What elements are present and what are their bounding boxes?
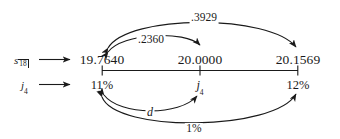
arc-label-upper-outer: .3929 — [190, 12, 219, 24]
row-label-j-subscript: 4 — [24, 87, 28, 96]
scale-bottom-j-subscript: 4 — [200, 88, 204, 97]
scale-axis — [102, 66, 298, 76]
row-pointer-arrows — [39, 60, 70, 85]
scale-bottom-value-middle: j4 — [196, 79, 203, 94]
row-label-s-subscript: 18 — [18, 59, 29, 68]
scale-bottom-value-left: 11% — [91, 79, 113, 92]
row-label-accumulation-symbol: s18 — [14, 55, 29, 66]
scale-top-value-left: 19.7640 — [80, 53, 125, 67]
arc-label-upper-inner: .2360 — [137, 34, 166, 46]
row-label-nominal-rate-symbol: j4 — [21, 80, 28, 94]
arc-label-lower-inner: d — [146, 106, 155, 118]
scale-top-value-right: 20.1569 — [276, 53, 321, 67]
diagram-canvas — [0, 0, 340, 139]
scale-bottom-value-right: 12% — [287, 79, 310, 92]
arc-label-lower-outer: 1% — [185, 123, 203, 135]
interpolation-diagram: s18 j4 19.7640 20.0000 20.1569 11% j4 12… — [0, 0, 340, 139]
scale-top-value-middle: 20.0000 — [178, 53, 223, 67]
